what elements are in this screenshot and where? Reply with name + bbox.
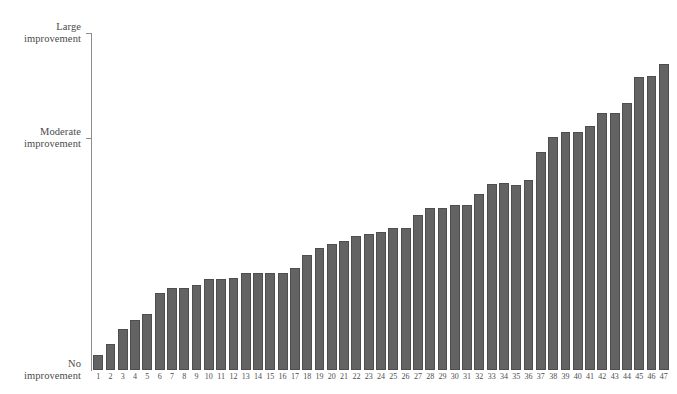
bar [585,126,595,370]
x-axis-tick-label: 39 [559,371,571,382]
bar [290,268,300,370]
bar [573,132,583,370]
x-axis-tick-label: 37 [535,371,547,382]
bar [106,344,116,370]
x-axis-tick-label: 30 [449,371,461,382]
x-axis-tick-label: 5 [141,371,153,382]
bar [647,76,657,370]
x-axis-tick-label: 7 [166,371,178,382]
x-axis-tick-label: 22 [350,371,362,382]
x-axis-tick-label: 40 [572,371,584,382]
x-axis-tick-label: 35 [510,371,522,382]
x-axis-tick-label: 17 [289,371,301,382]
bar [376,232,386,370]
bar [524,180,534,370]
x-axis-tick-label: 23 [363,371,375,382]
x-axis-tick-label: 42 [596,371,608,382]
bar [179,288,189,370]
y-axis-tick-label-line: improvement [0,138,81,151]
bar [229,278,239,370]
y-axis-tick-label-line: Moderate [0,126,81,139]
x-axis-tick-label: 24 [375,371,387,382]
bar [548,137,558,370]
bar [438,208,448,370]
x-axis-tick-label: 1 [92,371,104,382]
bar [536,152,546,370]
bar [253,273,263,370]
bar [142,314,152,370]
x-axis-tick-label: 6 [153,371,165,382]
y-axis: NoimprovementModerateimprovementLargeimp… [0,0,86,394]
x-axis-tick-label: 47 [658,371,670,382]
x-axis-tick-label: 46 [645,371,657,382]
bar [118,329,128,370]
x-axis-tick-label: 29 [436,371,448,382]
x-axis-tick-label: 45 [633,371,645,382]
y-axis-tick-mark [86,138,92,139]
y-axis-tick-label: Moderateimprovement [0,126,86,151]
bar [401,228,411,370]
bar [597,113,607,370]
x-axis-tick-label: 15 [264,371,276,382]
x-axis-tick-label: 13 [240,371,252,382]
bar [610,113,620,370]
plot-area [92,33,670,370]
x-axis-tick-label: 34 [498,371,510,382]
bar [302,255,312,370]
bar [511,185,521,370]
x-axis-tick-label: 8 [178,371,190,382]
bar [450,205,460,370]
bar [278,273,288,370]
bar [327,244,337,370]
x-axis-tick-label: 27 [412,371,424,382]
x-axis-tick-label: 11 [215,371,227,382]
x-axis-tick-label: 9 [190,371,202,382]
x-axis-tick-label: 4 [129,371,141,382]
bar [216,279,226,370]
bar [192,285,202,370]
x-axis-tick-label: 18 [301,371,313,382]
x-axis-tick-label: 43 [609,371,621,382]
y-axis-tick-label-line: Large [0,21,81,34]
bar [93,355,103,370]
bar [659,64,669,370]
y-axis-tick-label-line: No [0,358,81,371]
x-axis-tick-label: 21 [338,371,350,382]
bar [351,236,361,370]
bar [315,248,325,370]
x-axis-tick-label: 28 [424,371,436,382]
x-axis-tick-label: 3 [117,371,129,382]
y-axis-tick-mark [86,33,92,34]
bar [265,273,275,370]
x-axis-tick-label: 36 [522,371,534,382]
x-axis: 1234567891011121314151617181920212223242… [92,371,670,387]
bar [561,132,571,370]
bar [622,103,632,370]
y-axis-tick-label-line: improvement [0,33,81,46]
bar [364,234,374,370]
x-axis-tick-label: 16 [276,371,288,382]
y-axis-tick-label-line: improvement [0,370,81,383]
x-axis-tick-label: 2 [104,371,116,382]
bar [499,183,509,370]
bar-chart: NoimprovementModerateimprovementLargeimp… [0,0,677,394]
x-axis-tick-label: 25 [387,371,399,382]
x-axis-tick-label: 20 [326,371,338,382]
bar [474,194,484,370]
x-axis-tick-label: 26 [399,371,411,382]
bar [204,279,214,370]
bar [425,208,435,370]
bar [155,293,165,370]
bar [130,320,140,370]
x-axis-tick-label: 12 [227,371,239,382]
bar [241,273,251,370]
bar [339,241,349,370]
bar [388,228,398,370]
x-axis-tick-label: 10 [203,371,215,382]
x-axis-tick-label: 44 [621,371,633,382]
x-axis-tick-label: 14 [252,371,264,382]
y-axis-tick-label: Noimprovement [0,358,86,383]
x-axis-tick-label: 31 [461,371,473,382]
bar [413,215,423,370]
x-axis-tick-label: 32 [473,371,485,382]
